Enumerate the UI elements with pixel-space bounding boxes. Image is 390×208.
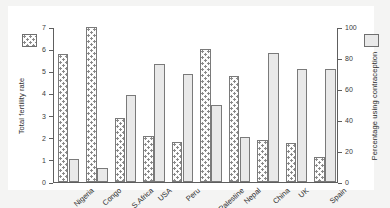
right-axis-line [337, 28, 338, 183]
right-axis-title: Percentage using contraception [370, 36, 379, 176]
bar-group [314, 28, 336, 182]
left-tick-mark [49, 72, 53, 73]
bar-total-fertility-rate [172, 142, 183, 182]
bar-total-fertility-rate [229, 76, 240, 182]
bar-group [286, 28, 308, 182]
bar-total-fertility-rate [58, 54, 69, 182]
bar-group [115, 28, 137, 182]
right-tick-label: 0 [345, 179, 369, 186]
right-tick-mark [338, 59, 342, 60]
right-tick-label: 100 [345, 24, 369, 31]
right-tick-mark [338, 183, 342, 184]
bar-total-fertility-rate [115, 118, 126, 182]
left-tick-mark [49, 94, 53, 95]
chart-figure: 01234567 020406080100 NigeriaCongoS.Afri… [0, 0, 390, 208]
bar-group [257, 28, 279, 182]
left-axis-title: Total fertility rate [17, 46, 26, 166]
bar-group [229, 28, 251, 182]
left-tick-mark [49, 50, 53, 51]
right-tick-label: 20 [345, 148, 369, 155]
bar-group [172, 28, 194, 182]
left-axis-line [53, 28, 54, 183]
left-tick-mark [49, 160, 53, 161]
bar-percentage-using-contraception [268, 53, 279, 182]
right-tick-label: 60 [345, 86, 369, 93]
left-tick-label: 0 [26, 179, 46, 186]
plot-area: 01234567 020406080100 NigeriaCongoS.Afri… [53, 28, 338, 183]
category-label: USA [156, 186, 173, 203]
bar-total-fertility-rate [86, 27, 97, 182]
left-tick-label: 3 [26, 113, 46, 120]
left-tick-mark [49, 138, 53, 139]
bar-percentage-using-contraception [325, 69, 336, 182]
bar-percentage-using-contraception [97, 168, 108, 182]
left-tick-label: 7 [26, 24, 46, 31]
bar-percentage-using-contraception [154, 64, 165, 182]
category-label: China [271, 186, 292, 206]
category-label: S.Africa [130, 186, 156, 208]
right-tick-mark [338, 28, 342, 29]
left-tick-label: 4 [26, 90, 46, 97]
bar-total-fertility-rate [257, 140, 268, 182]
category-label: Nepal [242, 186, 263, 206]
category-label: UK [297, 186, 311, 200]
right-tick-mark [338, 121, 342, 122]
category-label: Nigeria [72, 186, 96, 208]
left-tick-mark [49, 28, 53, 29]
left-tick-mark [49, 183, 53, 184]
bar-percentage-using-contraception [297, 69, 308, 182]
left-tick-label: 6 [26, 46, 46, 53]
right-tick-mark [338, 90, 342, 91]
chart-panel: 01234567 020406080100 NigeriaCongoS.Afri… [8, 6, 374, 190]
category-label: Peru [184, 186, 202, 203]
bar-total-fertility-rate [286, 143, 297, 182]
left-tick-label: 1 [26, 157, 46, 164]
bottom-axis-line [53, 182, 338, 183]
left-tick-mark [49, 116, 53, 117]
bar-total-fertility-rate [200, 49, 211, 182]
category-label: Congo [100, 186, 122, 207]
bar-group [143, 28, 165, 182]
left-tick-label: 5 [26, 68, 46, 75]
category-label: Spain [328, 186, 348, 206]
bar-percentage-using-contraception [69, 159, 80, 182]
bar-group [58, 28, 80, 182]
category-label: Palestine [217, 186, 246, 208]
bar-group [86, 28, 108, 182]
right-tick-label: 40 [345, 117, 369, 124]
bar-percentage-using-contraception [240, 137, 251, 182]
bar-group [200, 28, 222, 182]
bar-percentage-using-contraception [183, 74, 194, 183]
bar-total-fertility-rate [143, 136, 154, 183]
bar-percentage-using-contraception [211, 105, 222, 183]
right-tick-mark [338, 152, 342, 153]
bar-percentage-using-contraception [126, 95, 137, 182]
left-tick-label: 2 [26, 135, 46, 142]
right-tick-label: 80 [345, 55, 369, 62]
bar-total-fertility-rate [314, 157, 325, 182]
